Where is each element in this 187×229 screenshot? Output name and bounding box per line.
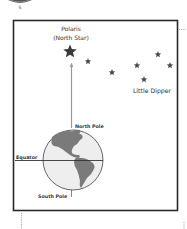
equator-label: Equator bbox=[16, 155, 38, 160]
star-icon bbox=[167, 62, 173, 68]
arrowhead-icon bbox=[70, 63, 74, 68]
star-icon bbox=[155, 51, 161, 57]
polaris-star-icon bbox=[63, 45, 76, 58]
south-pole-label: South Pole bbox=[38, 194, 68, 199]
diagram-frame bbox=[14, 21, 178, 211]
star-icon bbox=[134, 62, 140, 68]
little-dipper-stars bbox=[85, 51, 173, 82]
polaris-name-label: Polaris bbox=[61, 25, 81, 32]
star-icon bbox=[141, 76, 147, 82]
earth-globe-icon bbox=[15, 130, 103, 197]
compass-south-label: S bbox=[19, 5, 22, 10]
star-icon bbox=[109, 69, 115, 75]
little-dipper-label: Little Dipper bbox=[133, 87, 172, 95]
polaris-altname-label: (North Star) bbox=[53, 34, 89, 41]
polaris-diagram: S Polaris (North Star) Little Dipper Nor… bbox=[0, 0, 187, 229]
star-icon bbox=[85, 58, 91, 64]
compass-icon bbox=[8, 0, 32, 3]
north-pole-label: North Pole bbox=[75, 124, 105, 129]
